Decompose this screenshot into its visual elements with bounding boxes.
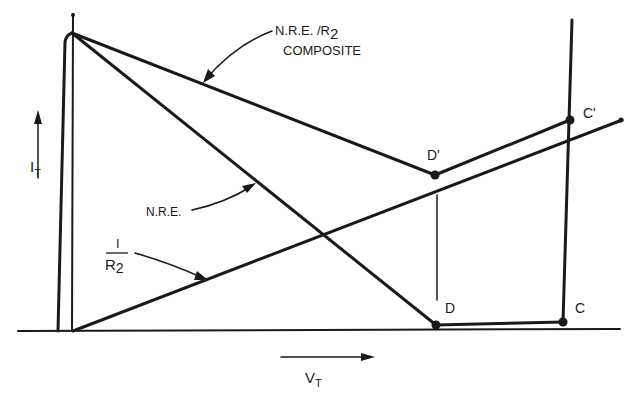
x-axis-label: VT: [305, 369, 322, 389]
point-c-label: C: [575, 300, 585, 316]
left-vertical-line: [72, 14, 73, 331]
r2-line-end-dot: [619, 118, 624, 123]
point-d-prime: [431, 171, 440, 180]
nre-curve: [72, 33, 563, 325]
composite-label-line1: N.R.E. /R2: [275, 23, 338, 42]
point-d-prime-label: D': [427, 147, 440, 163]
iv-diagram: IT VT N.R.E. /R2 COMPOSITE N.R.E. I R2 D…: [0, 0, 641, 395]
it-arrow-icon: [34, 110, 42, 124]
point-c-prime: [566, 116, 575, 125]
left-line-top-dot: [71, 13, 75, 17]
r2-label-denominator: R2: [105, 256, 124, 276]
vt-arrow-icon: [361, 353, 375, 361]
point-c-prime-label: C': [583, 105, 596, 121]
point-c: [559, 318, 568, 327]
point-d: [432, 321, 441, 330]
c-vertical-line: [563, 20, 572, 322]
composite-label-line2: COMPOSITE: [283, 43, 361, 58]
point-d-label: D: [445, 300, 455, 316]
r2-label-numerator: I: [116, 236, 120, 251]
r2-pointer-arrowhead-icon: [194, 271, 208, 280]
r2-load-line: [73, 120, 622, 331]
nre-label: N.R.E.: [146, 205, 181, 219]
baseline: [18, 329, 620, 331]
composite-pointer: [205, 31, 272, 80]
left-rise-curve: [58, 33, 72, 331]
r2-pointer: [135, 253, 203, 278]
nre-pointer: [192, 186, 252, 210]
y-axis-label: IT: [30, 158, 41, 179]
